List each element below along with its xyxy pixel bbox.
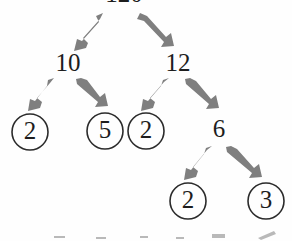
leaf-node-2-middle: 2 (128, 113, 164, 149)
root-node-label: 120 (105, 0, 143, 7)
edge-arrow-120-to-12 (137, 13, 174, 47)
factor-tree-svg: 2 5 2 2 3 120 10 12 6 (0, 0, 292, 241)
bottom-clipped-text-artifacts (54, 231, 276, 240)
leaf-node-5: 5 (87, 113, 123, 149)
leaf-label: 3 (260, 186, 273, 213)
leaf-label: 2 (140, 116, 153, 143)
leaf-label: 5 (99, 116, 112, 143)
factor-tree-figure: 2 5 2 2 3 120 10 12 6 (0, 0, 292, 241)
branch-node-10: 10 (56, 49, 81, 76)
edge-arrow-120-to-10 (74, 13, 103, 51)
edge-arrow-10-to-2 (28, 78, 54, 111)
leaf-node-3: 3 (248, 183, 284, 219)
branch-node-12: 12 (166, 49, 191, 76)
edge-arrow-10-to-5 (76, 78, 108, 107)
branch-node-label: 12 (166, 49, 191, 76)
edge-arrow-12-to-2 (141, 78, 169, 111)
edge-arrow-6-to-3 (226, 146, 262, 178)
leaf-label: 2 (182, 186, 195, 213)
branch-node-label: 6 (213, 115, 226, 142)
leaf-node-2-left: 2 (12, 114, 48, 150)
leaf-node-2-bottom: 2 (170, 183, 206, 219)
leaf-label: 2 (24, 117, 37, 144)
edge-arrow-6-to-2 (184, 146, 212, 180)
branch-node-6: 6 (213, 115, 226, 142)
edge-arrow-12-to-6 (185, 78, 219, 109)
branch-node-label: 10 (56, 49, 81, 76)
root-node-120: 120 (105, 0, 143, 7)
